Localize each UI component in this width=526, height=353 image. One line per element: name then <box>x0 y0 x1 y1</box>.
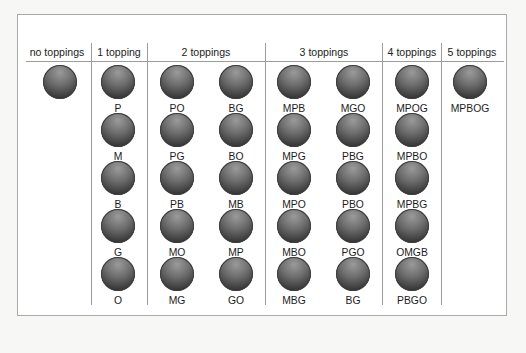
pizza-ball-icon <box>336 161 370 195</box>
pizza-ball-icon <box>277 209 311 243</box>
pizza-ball-icon <box>43 65 77 99</box>
pizza-ball-icon <box>219 113 253 147</box>
column-divider <box>147 43 148 305</box>
pizza-ball-icon <box>160 257 194 291</box>
pizza-ball-icon <box>277 257 311 291</box>
pizza-ball-icon <box>160 65 194 99</box>
pizza-ball-icon <box>219 161 253 195</box>
pizza-ball-icon <box>336 257 370 291</box>
header-3-toppings: 3 toppings <box>271 44 378 60</box>
header-4-toppings: 4 toppings <box>385 44 438 60</box>
column-divider <box>91 43 92 305</box>
header-2-toppings: 2 toppings <box>153 44 260 60</box>
topping-label: MPBOG <box>443 101 497 115</box>
pizza-ball-icon <box>101 257 135 291</box>
pizza-ball-icon <box>395 257 429 291</box>
pizza-ball-icon <box>160 113 194 147</box>
pizza-ball-icon <box>219 209 253 243</box>
pizza-ball-icon <box>277 65 311 99</box>
header-1-topping: 1 topping <box>94 44 144 60</box>
pizza-ball-icon <box>219 65 253 99</box>
pizza-ball-icon <box>219 257 253 291</box>
topping-label: O <box>91 293 145 307</box>
pizza-ball-icon <box>336 113 370 147</box>
pizza-ball-icon <box>395 113 429 147</box>
column-divider <box>441 43 442 305</box>
pizza-ball-icon <box>336 65 370 99</box>
column-divider <box>265 43 266 305</box>
header-5-toppings: 5 toppings <box>444 44 499 60</box>
pizza-ball-icon <box>336 209 370 243</box>
pizza-ball-icon <box>101 113 135 147</box>
pizza-ball-icon <box>160 161 194 195</box>
pizza-ball-icon <box>395 209 429 243</box>
pizza-ball-icon <box>160 209 194 243</box>
topping-label: GO <box>209 293 263 307</box>
topping-label: BG <box>326 293 380 307</box>
pizza-ball-icon <box>101 161 135 195</box>
topping-label: MG <box>150 293 204 307</box>
pizza-ball-icon <box>395 161 429 195</box>
pizza-ball-icon <box>101 65 135 99</box>
column-divider <box>382 43 383 305</box>
pizza-ball-icon <box>453 65 487 99</box>
pizza-ball-icon <box>101 209 135 243</box>
pizza-ball-icon <box>277 161 311 195</box>
pizza-ball-icon <box>277 113 311 147</box>
header-no-toppings: no toppings <box>27 44 88 60</box>
topping-label: PBGO <box>385 293 439 307</box>
topping-label: MBG <box>267 293 321 307</box>
pizza-ball-icon <box>395 65 429 99</box>
